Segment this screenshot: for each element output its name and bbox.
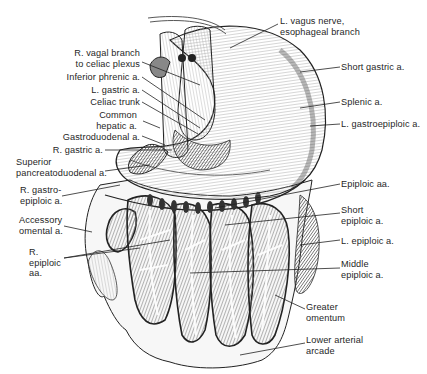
label-common-hepatic: Common hepatic a. bbox=[20, 110, 137, 131]
label-l-epiploic: L. epiploic a. bbox=[341, 236, 394, 247]
label-epiploic-aa: Epiploic aa. bbox=[341, 179, 390, 190]
label-l-gastric: L. gastric a. bbox=[20, 85, 140, 96]
anatomical-illustration: R. vagal branch to celiac plexus Inferio… bbox=[0, 0, 427, 374]
label-l-gastroepiploic: L. gastroepiploic a. bbox=[341, 119, 420, 130]
label-celiac-trunk: Celiac trunk bbox=[20, 97, 140, 108]
label-gastroduodenal: Gastroduodenal a. bbox=[20, 132, 140, 143]
label-lower-arterial-arcade: Lower arterial arcade bbox=[306, 335, 363, 356]
label-short-gastric: Short gastric a. bbox=[341, 62, 404, 73]
label-l-vagus: L. vagus nerve, esophageal branch bbox=[280, 16, 360, 37]
label-r-gastroepiploic: R. gastro- epiploic a. bbox=[20, 185, 62, 206]
label-r-epiploic: R. epiploic aa. bbox=[29, 247, 61, 279]
label-short-epiploic: Short epiploic a. bbox=[341, 205, 383, 226]
label-inferior-phrenic: Inferior phrenic a. bbox=[20, 72, 140, 83]
label-splenic: Splenic a. bbox=[341, 97, 382, 108]
label-r-gastric: R. gastric a. bbox=[20, 145, 103, 156]
label-sup-pancreatoduodenal: Superior pancreatoduodenal a. bbox=[16, 157, 107, 178]
label-greater-omentum: Greater omentum bbox=[306, 302, 345, 323]
label-r-vagal-branch: R. vagal branch to celiac plexus bbox=[20, 48, 140, 69]
stomach bbox=[116, 26, 325, 199]
label-accessory-omental: Accessory omental a. bbox=[19, 215, 63, 236]
label-middle-epiploic: Middle epiploic a. bbox=[341, 259, 383, 280]
